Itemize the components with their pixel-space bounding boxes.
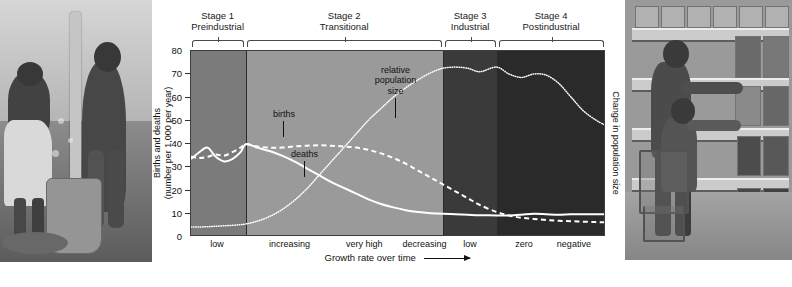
- stage-name-2: Transitional: [289, 21, 399, 32]
- store-product: [635, 6, 659, 28]
- photo-skirt: [4, 120, 52, 206]
- births-label-stem: [283, 121, 284, 137]
- figure-root: Stage 1PreindustrialStage 2TransitionalS…: [0, 0, 792, 287]
- y-tick-label: 30: [171, 161, 182, 172]
- stage-number-4: Stage 4: [496, 10, 606, 21]
- store-product: [763, 136, 789, 176]
- y-tick-label: 80: [171, 45, 182, 56]
- store-product: [661, 6, 685, 28]
- annotation-line: births: [273, 109, 295, 119]
- y-tick-mark: [185, 166, 190, 167]
- annotation-line: size: [387, 86, 403, 96]
- stage-header-4: Stage 4Postindustrial: [496, 10, 606, 32]
- photo-person-bending-head: [17, 62, 43, 86]
- photo-grain-dust-2: [68, 138, 73, 143]
- annotation-line: population: [375, 75, 417, 85]
- right-axis-title: Change in population size: [611, 50, 621, 236]
- photo-grain-dust-3: [52, 150, 59, 157]
- y-tick-label: 40: [171, 138, 182, 149]
- plot-area: birthsdeathsrelativepopulationsize: [190, 50, 605, 236]
- store-product: [735, 36, 761, 78]
- deaths-label: deaths: [263, 149, 347, 160]
- stage-number-1: Stage 1: [163, 10, 273, 21]
- x-category-1: low: [177, 239, 257, 249]
- x-category-7: negative: [534, 239, 614, 249]
- shopping-cart: [639, 150, 689, 214]
- store-product: [765, 6, 789, 28]
- store-product: [737, 136, 761, 176]
- deaths-curve: [191, 144, 604, 215]
- y-tick-mark: [185, 97, 190, 98]
- y-tick-label: 10: [171, 207, 182, 218]
- right-photo-consumer-society: [625, 0, 792, 260]
- births-label: births: [242, 109, 326, 120]
- store-adult-arm: [681, 82, 743, 94]
- y-tick-label: 60: [171, 91, 182, 102]
- stage-header-2: Stage 2Transitional: [289, 10, 399, 32]
- births-curve: [191, 144, 604, 222]
- stage-bracket-4: [499, 40, 604, 47]
- annotation-line: relative: [381, 65, 410, 75]
- photo-person-leg-2: [108, 150, 124, 228]
- y-tick-mark: [185, 73, 190, 74]
- photo-pot: [2, 232, 68, 254]
- y-tick-mark: [185, 143, 190, 144]
- y-tick-mark: [185, 213, 190, 214]
- photo-person-head: [94, 42, 121, 72]
- store-product: [687, 6, 711, 28]
- demographic-transition-chart: Stage 1PreindustrialStage 2TransitionalS…: [152, 0, 625, 262]
- store-adult-head: [663, 40, 689, 68]
- x-axis-title-text: Growth rate over time: [325, 252, 416, 263]
- y-tick-label: 50: [171, 114, 182, 125]
- stage-header-1: Stage 1Preindustrial: [163, 10, 273, 32]
- store-product: [763, 36, 789, 78]
- stage-bracket-3: [445, 40, 496, 47]
- store-product: [739, 6, 763, 28]
- stage-name-1: Preindustrial: [163, 21, 273, 32]
- annotation-line: deaths: [291, 149, 318, 159]
- population-label-stem: [395, 98, 396, 118]
- store-product: [763, 86, 789, 126]
- y-tick-label: 20: [171, 184, 182, 195]
- photo-grain-dust: [58, 118, 64, 124]
- population-label: relativepopulationsize: [353, 65, 437, 97]
- x-category-2: increasing: [250, 239, 330, 249]
- stage-name-4: Postindustrial: [496, 21, 606, 32]
- y-axis-title-wrap: Births and deaths (number per 1,000 per …: [154, 50, 168, 236]
- y-axis-title-line1: Births and deaths: [152, 108, 162, 178]
- x-axis-title: Growth rate over time: [190, 252, 605, 263]
- shopping-cart-base: [643, 206, 685, 242]
- store-child-arm: [687, 120, 741, 131]
- left-photo-traditional-society: [0, 0, 152, 262]
- deaths-label-stem: [304, 161, 305, 177]
- y-tick-mark: [185, 190, 190, 191]
- store-product: [713, 6, 737, 28]
- stage-bracket-2: [247, 40, 442, 47]
- stage-number-2: Stage 2: [289, 10, 399, 21]
- y-tick-mark: [185, 120, 190, 121]
- right-axis-title-wrap: Change in population size: [608, 50, 622, 236]
- stage-bracket-1: [192, 40, 244, 47]
- x-axis-arrow-icon: [424, 258, 470, 259]
- y-tick-label: 70: [171, 68, 182, 79]
